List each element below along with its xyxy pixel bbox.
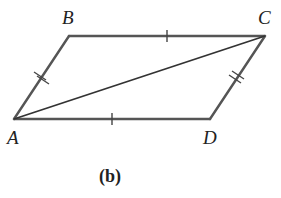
vertex-label-d: D [202, 127, 217, 148]
parallelogram-diagram: B C A D (b) [0, 0, 281, 198]
diagonal-ac [14, 36, 265, 119]
vertex-label-c: C [258, 7, 271, 28]
vertex-label-b: B [62, 7, 74, 28]
vertex-label-a: A [5, 127, 19, 148]
segment-cd [210, 36, 265, 119]
figure-caption: (b) [99, 166, 121, 187]
